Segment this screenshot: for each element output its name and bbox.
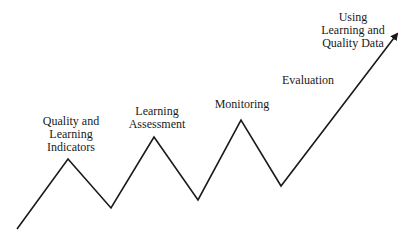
- label-learning-assessment: Learning Assessment: [124, 105, 190, 131]
- label-using-learning-quality-data: Using Learning and Quality Data: [318, 11, 388, 50]
- label-monitoring: Monitoring: [210, 98, 274, 111]
- label-quality-learning-indicators: Quality and Learning Indicators: [36, 115, 106, 154]
- label-evaluation: Evaluation: [276, 74, 340, 87]
